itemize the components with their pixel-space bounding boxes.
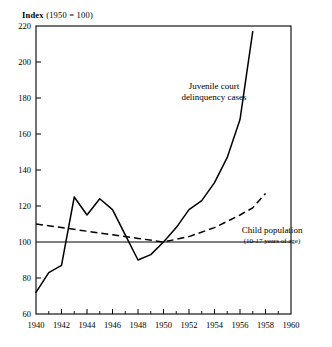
y-tick-label-220: 220 <box>18 21 31 31</box>
x-tick-label-1956: 1956 <box>232 320 249 330</box>
y-tick-label-180: 180 <box>18 93 31 103</box>
annotation-child-line2: (10-17 years of age) <box>244 237 301 245</box>
annotation-juvenile-line2: delinquency cases <box>181 92 247 102</box>
plot-frame <box>36 26 291 314</box>
x-axis-ticks <box>49 309 279 314</box>
y-tick-label-60: 60 <box>23 309 32 319</box>
y-tick-label-120: 120 <box>18 201 31 211</box>
x-tick-label-1944: 1944 <box>79 320 97 330</box>
x-tick-label-1948: 1948 <box>130 320 147 330</box>
x-tick-label-1960: 1960 <box>283 320 300 330</box>
y-tick-label-140: 140 <box>18 165 31 175</box>
series-juvenile-court-delinquency-cases <box>36 31 253 292</box>
y-axis-tick-labels: 2202001801601401201008060 <box>18 21 31 319</box>
x-tick-label-1958: 1958 <box>257 320 274 330</box>
x-tick-label-1954: 1954 <box>206 320 224 330</box>
x-tick-label-1950: 1950 <box>155 320 172 330</box>
x-tick-label-1942: 1942 <box>53 320 70 330</box>
chart-plot: 2202001801601401201008060 19401942194419… <box>0 0 332 347</box>
annotation-juvenile-line1: Juvenile court <box>189 81 240 91</box>
x-axis-tick-labels: 1940194219441946194819501952195419561958… <box>28 320 300 330</box>
x-tick-label-1952: 1952 <box>181 320 198 330</box>
y-tick-label-160: 160 <box>18 129 31 139</box>
y-tick-label-80: 80 <box>23 273 32 283</box>
x-tick-label-1940: 1940 <box>28 320 45 330</box>
y-tick-label-100: 100 <box>18 237 31 247</box>
y-tick-label-200: 200 <box>18 57 31 67</box>
chart-container: Index (1950 = 100) 220200180160140120100… <box>0 0 332 347</box>
annotation-child-line1: Child population <box>242 225 303 235</box>
x-tick-label-1946: 1946 <box>104 320 121 330</box>
y-axis-ticks <box>36 62 41 278</box>
